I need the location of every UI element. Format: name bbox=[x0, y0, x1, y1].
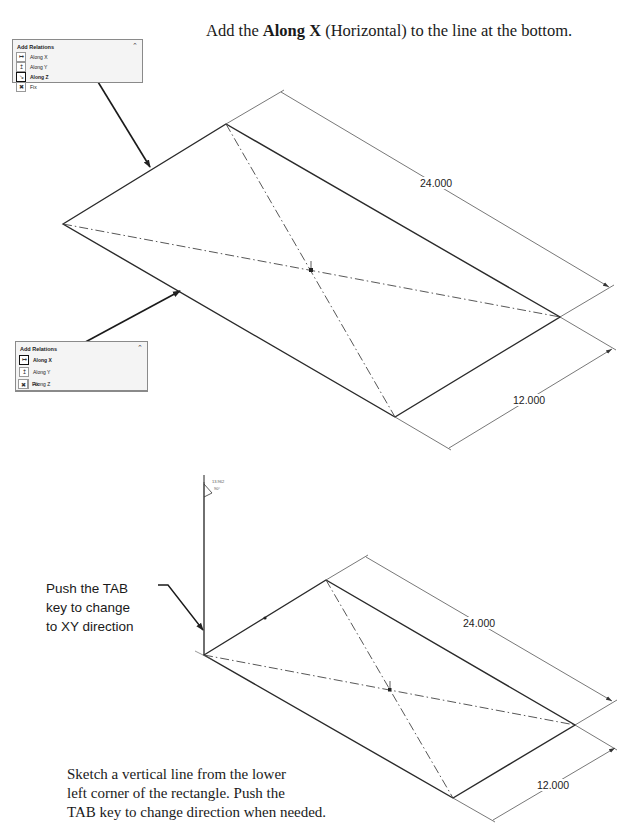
chevron-up-icon[interactable]: ⌃ bbox=[132, 42, 138, 50]
relation-label: Along Y bbox=[30, 64, 47, 70]
along-y-icon: ↥ bbox=[19, 367, 29, 377]
relation-label: Along Z bbox=[30, 74, 49, 80]
caption-line: left corner of the rectangle. Push the bbox=[67, 784, 326, 803]
panel-title: Add Relations bbox=[17, 44, 54, 50]
center-point-marker bbox=[388, 688, 392, 692]
fix-icon: ✖ bbox=[18, 379, 28, 389]
page: Add the Along X (Horizontal) to the line… bbox=[0, 0, 626, 826]
relation-label: Along Y bbox=[33, 369, 50, 375]
line-length-readout: 13.962 bbox=[212, 479, 224, 484]
angle-readout: 90° bbox=[214, 486, 220, 491]
callout-arrow-tab bbox=[158, 585, 203, 630]
relation-label: Fix bbox=[30, 84, 37, 90]
along-y-icon: ↥ bbox=[16, 62, 26, 72]
along-x-icon: ↦ bbox=[16, 52, 26, 62]
panel-title: Add Relations bbox=[20, 346, 57, 352]
chevron-up-icon[interactable]: ⌃ bbox=[137, 344, 143, 352]
relation-label: Along X bbox=[30, 54, 48, 60]
callout-line: to XY direction bbox=[46, 617, 134, 636]
relation-label: Along X bbox=[33, 357, 52, 363]
caption-line: TAB key to change direction when needed. bbox=[67, 803, 326, 822]
cursor-pencil-icon bbox=[204, 484, 212, 497]
relation-fix[interactable]: ✖ Fix bbox=[18, 379, 39, 389]
along-z-icon: ↘ bbox=[16, 72, 26, 82]
add-relations-panel-top: Add Relations ⌃ ↦ Along X ↥ Along Y ↘ Al… bbox=[12, 39, 143, 83]
relation-along-y[interactable]: ↥ Along Y bbox=[19, 366, 50, 377]
relation-label: Fix bbox=[32, 381, 39, 387]
callout-arrow-along-z bbox=[95, 77, 150, 167]
callout-line: key to change bbox=[46, 598, 134, 617]
dimension-length-bottom[interactable]: 24.000 bbox=[462, 617, 496, 629]
caption-line: Sketch a vertical line from the lower bbox=[67, 765, 326, 784]
midpoint-marker bbox=[263, 616, 266, 619]
along-x-icon: ↦ bbox=[19, 355, 29, 365]
sketch-canvas bbox=[0, 0, 626, 826]
dimension-width-bottom[interactable]: 12.000 bbox=[536, 779, 570, 791]
relation-fix[interactable]: ✖ Fix bbox=[16, 81, 37, 92]
panel-bottom-edge bbox=[15, 390, 148, 391]
dimension-width-top[interactable]: 12.000 bbox=[512, 394, 546, 406]
fix-icon: ✖ bbox=[16, 82, 26, 92]
center-point-marker bbox=[309, 268, 313, 272]
dimension-length-top[interactable]: 24.000 bbox=[419, 177, 453, 189]
tab-key-callout: Push the TAB key to change to XY directi… bbox=[46, 579, 134, 636]
caption-text: Sketch a vertical line from the lower le… bbox=[67, 765, 326, 822]
callout-line: Push the TAB bbox=[46, 579, 134, 598]
relation-along-x[interactable]: ↦ Along X bbox=[19, 354, 52, 365]
